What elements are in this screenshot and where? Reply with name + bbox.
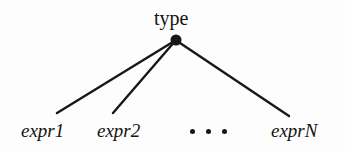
ellipsis-dot	[222, 129, 227, 134]
root-node-label: type	[154, 8, 188, 28]
edge-root-to-exprN	[177, 41, 289, 116]
leaf-label-expr1: expr1	[21, 121, 64, 140]
ellipsis-dot	[206, 129, 211, 134]
leaf-label-expr2: expr2	[97, 121, 140, 140]
leaf-label-exprN: exprN	[271, 121, 317, 140]
tree-diagram: type expr1 expr2 exprN	[0, 0, 345, 151]
ellipsis-icon	[189, 126, 229, 138]
root-node-dot	[171, 35, 182, 46]
edge-root-to-expr2	[113, 40, 176, 113]
edge-root-to-expr1	[57, 40, 176, 113]
ellipsis-dot	[190, 129, 195, 134]
